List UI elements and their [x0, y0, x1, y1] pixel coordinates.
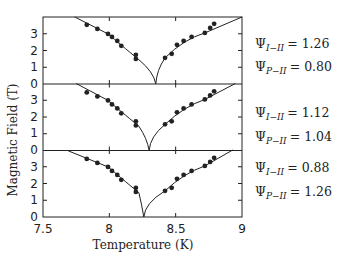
data-point [189, 35, 194, 40]
y-tick-label: 3 [30, 27, 38, 41]
psi-p-ii-label: ΨP−II= 0.80 [255, 59, 332, 76]
data-point [175, 42, 180, 47]
magnetic-phase-chart: 7.5 8 8.5 9 0 1 2 3 0 1 2 3 0 1 2 3 Temp… [0, 0, 341, 260]
y-tick-label: 1 [30, 60, 38, 74]
data-point [110, 35, 115, 40]
y-tick-label: 0 [30, 210, 38, 224]
data-point [212, 21, 217, 26]
data-point [208, 159, 213, 164]
data-point [95, 94, 100, 99]
plot-panels [68, 17, 242, 217]
data-point [175, 110, 180, 115]
data-point [110, 169, 115, 174]
data-point [181, 173, 186, 178]
data-point [115, 39, 120, 44]
data-point [84, 90, 89, 95]
data-point [115, 106, 120, 111]
data-point [208, 93, 213, 98]
data-point [169, 119, 174, 124]
data-point [84, 156, 89, 161]
y-tick-label: 2 [30, 110, 38, 124]
y-tick-label: 1 [30, 193, 38, 207]
y-tick-label: 1 [30, 126, 38, 140]
phase-boundary-curve [149, 84, 235, 151]
phase-boundary-curve [156, 17, 242, 84]
psi-i-ii-label: ΨI−II= 0.88 [255, 160, 330, 177]
x-axis-title: Temperature (K) [93, 238, 194, 252]
data-point [119, 177, 124, 182]
data-point [189, 169, 194, 174]
data-point [189, 102, 194, 107]
x-tick-label: 8 [105, 222, 113, 236]
data-point [212, 155, 217, 160]
data-point [106, 98, 111, 103]
data-point [163, 55, 168, 60]
panel2-params: ΨI−II= 1.12 ΨP−II= 1.04 [255, 105, 332, 146]
data-point [175, 176, 180, 181]
psi-i-ii-label: ΨI−II= 1.12 [255, 105, 329, 122]
phase-boundary-curve [68, 151, 144, 217]
data-point [115, 173, 120, 178]
panel3-params: ΨI−II= 0.88 ΨP−II= 1.26 [255, 160, 332, 201]
data-point [169, 185, 174, 190]
data-point [84, 22, 89, 27]
data-point [106, 165, 111, 170]
data-point [163, 122, 168, 127]
data-point [181, 106, 186, 111]
y-tick-label: 0 [30, 77, 38, 91]
data-point [169, 51, 174, 56]
psi-i-ii-label: ΨI−II= 1.26 [255, 36, 330, 53]
data-point [95, 26, 100, 31]
data-point [133, 189, 138, 194]
y-tick-label: 0 [30, 143, 38, 157]
y-tick-label: 3 [30, 160, 38, 174]
phase-boundary-curve [144, 150, 233, 217]
plot-frame [43, 17, 242, 217]
data-point [208, 25, 213, 30]
y-tick-label: 2 [30, 177, 38, 191]
data-point [202, 97, 207, 102]
data-point [133, 56, 138, 61]
x-tick-label: 8.5 [166, 222, 185, 236]
panel-top [75, 17, 242, 84]
data-point [95, 160, 100, 165]
data-point [181, 39, 186, 44]
psi-p-ii-label: ΨP−II= 1.26 [255, 184, 332, 201]
data-point [202, 31, 207, 36]
y-tick-label: 3 [30, 93, 38, 107]
plot-border [43, 17, 242, 217]
data-point [119, 111, 124, 116]
data-point [212, 89, 217, 94]
data-point [110, 102, 115, 107]
data-point [106, 32, 111, 37]
panel-bottom [68, 150, 233, 217]
y-tick-label: 2 [30, 44, 38, 58]
data-point [133, 123, 138, 128]
panel1-params: ΨI−II= 1.26 ΨP−II= 0.80 [255, 36, 332, 76]
x-tick-label: 9 [238, 222, 246, 236]
y-axis-title: Magnetic Field (T) [6, 83, 20, 196]
data-point [163, 188, 168, 193]
x-tick-label: 7.5 [33, 222, 52, 236]
data-point [202, 164, 207, 169]
panel-middle [76, 84, 235, 151]
psi-p-ii-label: ΨP−II= 1.04 [255, 129, 332, 146]
data-point [119, 43, 124, 48]
